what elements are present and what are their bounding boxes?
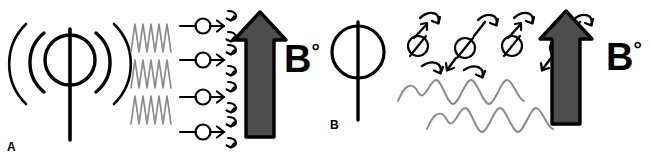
coil-arc-left-inner-icon [30,33,44,92]
rf-wave-row-3 [131,96,171,124]
precession-curl-head-icon [476,71,485,78]
precession-curl-3 [464,66,485,77]
rf-zigzag-waves [131,24,171,124]
spin-circle-icon [196,19,211,34]
spin-circle-icon [196,53,211,68]
spin-circle-icon [196,90,211,105]
precession-curl-head-icon [432,17,440,24]
precession-curl-head-icon [585,19,593,26]
spin-unit-2 [180,45,236,76]
b0-letter: B [606,36,633,78]
panel-b: B° B [326,0,651,158]
b0-arrow-shape-icon [234,12,286,137]
b0-label-b: B° [606,38,642,76]
spin-circle-icon [196,125,211,140]
rf-wave-row-1 [131,24,171,52]
b0-degree-symbol: ° [311,39,319,62]
panel-label-b: B [330,118,339,132]
signal-wave-row-1 [398,80,524,104]
signal-wave-row-2 [427,108,553,132]
precessing-spin-2 [446,15,498,71]
b0-letter: B [284,38,311,80]
b0-field-arrow [234,12,286,137]
precession-curl-head-icon [526,17,534,24]
precession-curl-head-icon [434,67,443,74]
panel-a: B° A [0,0,326,158]
precession-curl-2 [422,62,443,73]
spin-unit-1 [180,11,236,42]
b0-degree-symbol: ° [633,37,641,60]
coil-arc-right-outer-icon [114,24,131,104]
precessing-spin-3 [502,13,534,56]
panel-b-graphics [326,0,651,158]
b0-label-a: B° [284,40,320,78]
coil-arc-left-outer-icon [9,24,26,104]
spin-vector-icon [474,22,485,36]
rf-wave-row-2 [131,60,171,88]
spin-unit-3 [180,82,236,113]
panel-label-a: A [7,140,16,154]
spin-row [180,11,236,148]
precessing-spin-1 [408,13,440,56]
spin-unit-4 [180,117,236,148]
emitted-sine-waves [398,80,553,132]
coil-arc-right-inner-icon [96,33,110,92]
receiving-coil-symbol [332,22,384,120]
transmitting-coil-symbol [9,24,131,140]
figure-root: B° A [0,0,651,158]
panel-a-graphics [0,0,326,158]
precession-curl-head-icon [490,19,498,26]
